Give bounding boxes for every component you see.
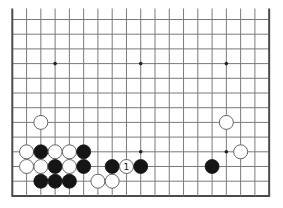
- move-number-label: 1: [124, 162, 130, 172]
- black-stone: [105, 160, 119, 174]
- black-stone: [34, 145, 48, 159]
- star-point: [139, 62, 143, 66]
- star-point: [139, 150, 143, 154]
- white-stone: [20, 160, 34, 174]
- white-stone: [62, 145, 76, 159]
- white-stone: [34, 115, 48, 129]
- black-stone: [48, 160, 62, 174]
- star-point: [225, 62, 229, 66]
- black-stone: [62, 174, 76, 188]
- star-point: [225, 150, 229, 154]
- black-stone: [48, 174, 62, 188]
- go-board: 1: [0, 0, 283, 208]
- black-stone: [77, 160, 91, 174]
- white-stone: [234, 145, 248, 159]
- white-stone: [48, 145, 62, 159]
- white-stone: [91, 174, 105, 188]
- black-stone: [77, 145, 91, 159]
- black-stone: [34, 174, 48, 188]
- white-stone: [219, 115, 233, 129]
- star-point: [53, 62, 57, 66]
- white-stone: 1: [119, 160, 133, 174]
- white-stone: [20, 145, 34, 159]
- white-stone: [34, 160, 48, 174]
- white-stone: [62, 160, 76, 174]
- black-stone: [205, 160, 219, 174]
- black-stone: [134, 160, 148, 174]
- white-stone: [105, 174, 119, 188]
